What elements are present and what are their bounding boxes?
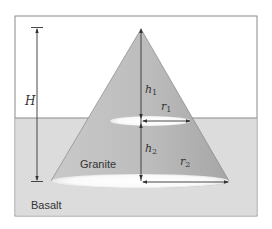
- label-basalt: Basalt: [31, 199, 62, 211]
- label-granite: Granite: [80, 158, 116, 170]
- isostasy-cone-diagram: H h1 r1 h2 r2 Granite Basalt: [0, 0, 272, 229]
- label-H: H: [24, 94, 36, 108]
